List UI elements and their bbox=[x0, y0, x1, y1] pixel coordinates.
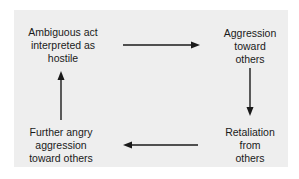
arrows-layer bbox=[0, 0, 299, 179]
